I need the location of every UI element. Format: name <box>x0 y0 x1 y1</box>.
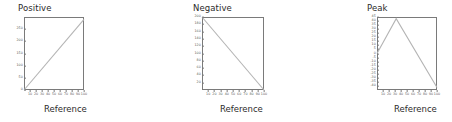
y-tick-label: 45 <box>372 15 376 18</box>
line-path <box>202 17 264 90</box>
y-tick-label: 35 <box>372 23 376 26</box>
x-tick-mark <box>395 90 396 92</box>
y-tick-label: 30 <box>372 28 376 31</box>
x-tick-label: 40 <box>46 93 50 96</box>
x-tick-label: 20 <box>34 93 38 96</box>
x-tick-label: 90 <box>429 93 433 96</box>
y-tick-label: 25 <box>372 32 376 35</box>
line-path <box>377 19 437 88</box>
y-tick-label: 10 <box>372 44 376 47</box>
panel-title: Peak <box>367 3 388 13</box>
data-series <box>377 17 437 90</box>
y-tick-mark <box>202 24 204 25</box>
y-tick-label: 120 <box>195 45 201 48</box>
x-tick-label: 60 <box>58 93 62 96</box>
x-tick-mark <box>78 90 79 92</box>
x-tick-label: 90 <box>76 93 80 96</box>
y-tick-label: 40 <box>372 19 376 22</box>
x-tick-mark <box>389 90 390 92</box>
x-tick-mark <box>437 90 438 92</box>
y-tick-mark <box>202 82 204 83</box>
y-tick-mark <box>377 45 379 46</box>
x-tick-mark <box>257 90 258 92</box>
x-tick-mark <box>214 90 215 92</box>
x-tick-mark <box>251 90 252 92</box>
x-tick-mark <box>36 90 37 92</box>
y-tick-label: 100 <box>195 52 201 55</box>
y-tick-mark <box>377 77 379 78</box>
y-tick-mark <box>377 33 379 34</box>
y-tick-label: 0 <box>21 88 23 91</box>
x-tick-label: 30 <box>393 93 397 96</box>
x-tick-mark <box>233 90 234 92</box>
y-tick-mark <box>202 17 204 18</box>
x-axis-label: Reference <box>44 104 87 114</box>
x-tick-label: 50 <box>231 93 235 96</box>
y-tick-label: 5 <box>374 48 376 51</box>
x-tick-mark <box>245 90 246 92</box>
x-tick-label: 70 <box>64 93 68 96</box>
x-tick-mark <box>54 90 55 92</box>
y-tick-mark <box>377 29 379 30</box>
y-tick-mark <box>377 49 379 50</box>
y-tick-mark <box>377 82 379 83</box>
x-tick-label: 70 <box>243 93 247 96</box>
chart-panel-negative: Negative20406080100120140160180200102030… <box>180 0 268 122</box>
x-tick-mark <box>30 90 31 92</box>
x-tick-label: 20 <box>212 93 216 96</box>
x-tick-label: 50 <box>405 93 409 96</box>
y-tick-mark <box>202 60 204 61</box>
y-tick-label: 160 <box>195 30 201 33</box>
x-tick-label: 30 <box>40 93 44 96</box>
y-tick-label: -20 <box>370 68 375 71</box>
y-tick-mark <box>202 31 204 32</box>
y-tick-mark <box>24 41 26 42</box>
line-path <box>24 19 84 90</box>
y-tick-mark <box>24 65 26 66</box>
plot-area: 2040608010012014016018020010203040506070… <box>202 17 264 90</box>
x-tick-label: 100 <box>81 93 87 96</box>
x-tick-mark <box>60 90 61 92</box>
y-tick-label: -35 <box>370 80 375 83</box>
x-tick-label: 60 <box>237 93 241 96</box>
y-tick-mark <box>377 65 379 66</box>
x-tick-label: 10 <box>381 93 385 96</box>
y-tick-label: -30 <box>370 76 375 79</box>
x-tick-label: 80 <box>423 93 427 96</box>
y-tick-mark <box>24 90 26 91</box>
y-tick-label: 100 <box>17 64 23 67</box>
y-tick-mark <box>202 46 204 47</box>
x-tick-mark <box>66 90 67 92</box>
y-tick-label: 50 <box>19 76 23 79</box>
y-axis-ticks: -40-35-30-25-20-15-10-505101520253035404… <box>358 17 377 90</box>
y-tick-label: -25 <box>370 72 375 75</box>
x-tick-label: 10 <box>28 93 32 96</box>
x-axis-label: Reference <box>220 104 263 114</box>
x-tick-mark <box>413 90 414 92</box>
y-tick-label: 140 <box>195 37 201 40</box>
x-tick-mark <box>226 90 227 92</box>
x-tick-mark <box>419 90 420 92</box>
y-tick-label: 80 <box>197 59 201 62</box>
y-tick-label: 200 <box>17 40 23 43</box>
x-tick-label: 40 <box>225 93 229 96</box>
data-series <box>24 17 84 90</box>
x-tick-label: 20 <box>387 93 391 96</box>
y-tick-label: 20 <box>197 81 201 84</box>
y-tick-label: 250 <box>17 28 23 31</box>
x-tick-label: 50 <box>52 93 56 96</box>
x-tick-label: 100 <box>261 93 267 96</box>
x-tick-label: 30 <box>218 93 222 96</box>
y-tick-mark <box>377 53 379 54</box>
y-tick-mark <box>377 21 379 22</box>
y-tick-label: 15 <box>372 40 376 43</box>
y-tick-mark <box>377 57 379 58</box>
data-series <box>202 17 264 90</box>
y-tick-mark <box>377 25 379 26</box>
y-tick-label: 60 <box>197 66 201 69</box>
x-tick-mark <box>48 90 49 92</box>
y-tick-mark <box>377 17 379 18</box>
x-tick-mark <box>72 90 73 92</box>
y-tick-label: -15 <box>370 64 375 67</box>
y-tick-mark <box>377 37 379 38</box>
